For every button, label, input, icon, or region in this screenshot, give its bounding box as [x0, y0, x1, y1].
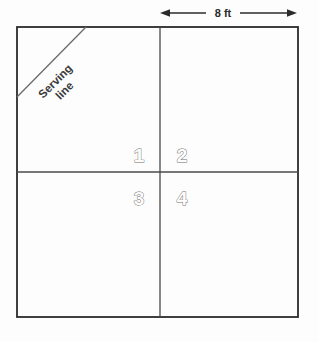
arrow-head-right-icon [287, 9, 297, 17]
dimension-arrow-group: 8 ft [160, 7, 297, 19]
region-label-4: 4 [177, 188, 188, 209]
region-label-3: 3 [134, 188, 145, 209]
floor-plan-diagram: 8 ft Serving line 1 2 3 4 [0, 0, 319, 342]
arrow-head-left-icon [160, 9, 170, 17]
region-label-1: 1 [134, 145, 145, 166]
region-label-2: 2 [177, 145, 188, 166]
dimension-label: 8 ft [215, 7, 232, 19]
diagram-canvas: 8 ft Serving line 1 2 3 4 [0, 0, 319, 342]
